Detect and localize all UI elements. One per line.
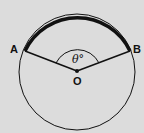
circle-figure	[0, 0, 144, 133]
radius-oa	[25, 51, 77, 71]
circle-diagram: A B O θ°	[0, 0, 144, 133]
label-theta: θ°	[72, 53, 84, 66]
radius-ob	[77, 51, 130, 71]
label-o: O	[73, 75, 82, 87]
arc-ab	[25, 18, 130, 51]
center-point	[75, 69, 79, 73]
label-b: B	[133, 43, 141, 55]
label-a: A	[10, 43, 18, 55]
